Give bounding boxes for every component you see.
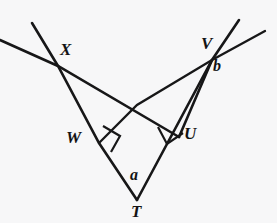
point-label-U: U <box>184 125 196 142</box>
line-upper-right-steep-through-V-to-T <box>137 20 239 200</box>
point-label-V: V <box>201 35 212 52</box>
right-angle-mark-at-W <box>103 126 120 152</box>
point-label-W: W <box>66 129 81 146</box>
diagram-canvas <box>0 0 277 223</box>
line-upper-left-through-X-W-to-T <box>32 23 137 200</box>
point-label-X: X <box>60 41 71 58</box>
angle-label-b: b <box>213 58 221 74</box>
point-label-T: T <box>131 203 141 220</box>
geometry-diagram: X V b W U a T <box>0 0 277 223</box>
angle-label-a: a <box>130 167 138 183</box>
line-upper-right-shallow-through-V-to-W <box>99 31 265 143</box>
